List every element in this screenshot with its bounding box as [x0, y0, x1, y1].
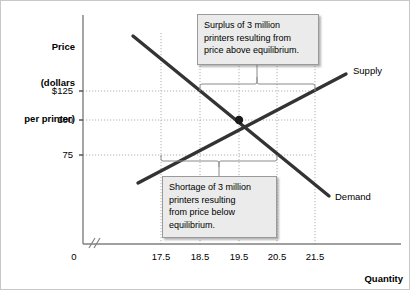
shortage-callout: Shortage of 3 million printers resulting… [162, 176, 277, 238]
y-tick-label-125: $125 [27, 85, 73, 97]
y-tick-label-100: 100 [27, 114, 73, 126]
demand-curve-label: Demand [335, 191, 371, 203]
surplus-callout-line-1: Surplus of 3 million [204, 19, 313, 32]
y-axis-title-line-1: Price [9, 41, 75, 53]
shortage-callout-line-1: Shortage of 3 million [169, 181, 271, 194]
supply-demand-chart: Price (dollars per printer) $125 100 75 … [0, 0, 410, 290]
shortage-callout-line-2: printers resulting [169, 194, 271, 207]
surplus-callout: Surplus of 3 million printers resulting … [197, 14, 319, 65]
x-tick-label-17-5: 17.5 [141, 251, 181, 263]
origin-label: 0 [67, 251, 81, 263]
y-axis-title: Price (dollars per printer) [9, 17, 75, 149]
surplus-callout-line-2: printers resulting from [204, 32, 313, 45]
surplus-bracket [200, 65, 315, 91]
shortage-callout-line-4: equilibrium. [169, 219, 271, 232]
x-axis-title: Quantity (millions of printers per month… [269, 249, 403, 290]
shortage-callout-line-3: from price below [169, 206, 271, 219]
surplus-callout-line-3: price above equilibrium. [204, 44, 313, 57]
x-tick-label-18-5: 18.5 [180, 251, 220, 263]
x-tick-label-19-5: 19.5 [219, 251, 259, 263]
y-tick-label-75: 75 [27, 149, 73, 161]
x-axis-title-line-1: Quantity [269, 273, 403, 285]
axis-break-icon [89, 238, 100, 248]
shortage-bracket [161, 155, 277, 177]
supply-curve-label: Supply [353, 65, 382, 77]
equilibrium-point [235, 116, 243, 124]
